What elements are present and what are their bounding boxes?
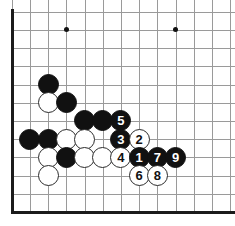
move-number-label: 9	[172, 150, 179, 163]
move-number-label: 7	[154, 150, 161, 163]
move-number-label: 3	[117, 132, 124, 145]
move-number-label: 1	[135, 150, 142, 163]
white-stone	[38, 165, 59, 186]
move-number-label: 2	[135, 132, 142, 145]
go-board-diagram: 532417968	[0, 0, 235, 226]
move-number-label: 6	[135, 169, 142, 182]
black-stone	[56, 92, 77, 113]
move-number-label: 5	[117, 114, 124, 127]
move-number-label: 8	[154, 169, 161, 182]
black-move-9: 9	[165, 147, 186, 168]
white-move-8: 8	[147, 165, 168, 186]
stone-layer: 532417968	[0, 0, 235, 226]
move-number-label: 4	[117, 150, 124, 163]
